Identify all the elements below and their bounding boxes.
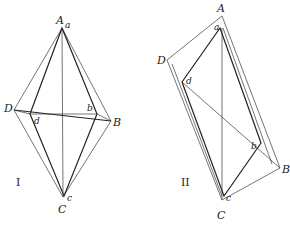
label-c-2: c	[226, 193, 231, 203]
parallel-dc-2	[172, 64, 222, 196]
label-c-1: c	[67, 193, 72, 203]
label-a-2: a	[214, 22, 219, 32]
inner-quad-2	[182, 28, 261, 196]
figure-1: A a D d b B c C I	[3, 14, 121, 216]
figure-label-1: I	[16, 176, 20, 189]
outer-quad-2	[167, 16, 280, 200]
label-b-2: b	[251, 141, 257, 151]
label-A-2: A	[216, 2, 225, 15]
label-a-1: a	[65, 20, 70, 30]
label-B-2: B	[281, 163, 290, 176]
label-C-1: C	[58, 203, 67, 216]
label-B-1: B	[112, 116, 121, 129]
label-d-2: d	[186, 76, 192, 86]
label-D-1: D	[3, 102, 13, 115]
label-D-2: D	[156, 54, 166, 67]
parallel-ab-2	[223, 28, 272, 164]
diagram-canvas: A a D d b B c C I A a D d b B c C II	[0, 0, 290, 227]
label-b-1: b	[87, 103, 93, 113]
diagonal-db-2	[182, 82, 280, 168]
label-A-1: A	[55, 14, 64, 27]
diagonal-ac-1	[62, 28, 63, 197]
figure-label-2: II	[181, 176, 190, 189]
figure-2: A a D d b B c C II	[156, 2, 290, 222]
label-d-1: d	[34, 116, 40, 126]
label-C-2: C	[217, 209, 226, 222]
